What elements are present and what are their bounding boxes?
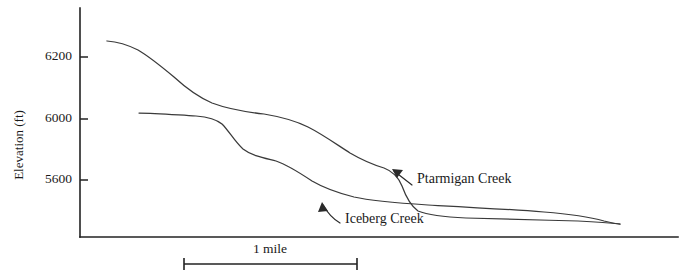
series-line-ptarmigan-creek xyxy=(107,41,620,224)
y-axis-ticks xyxy=(80,57,88,180)
scale-bar-label: 1 mile xyxy=(253,241,287,256)
elevation-profile-figure: 6200 6000 5600 Elevation (ft) Ptarmigan … xyxy=(0,0,685,275)
y-tick-label-6000: 6000 xyxy=(45,110,72,125)
y-tick-label-5600: 5600 xyxy=(45,171,72,186)
annotation-iceberg-creek: Iceberg Creek xyxy=(318,202,424,226)
iceberg-creek-label: Iceberg Creek xyxy=(345,211,424,226)
series-line-iceberg-creek xyxy=(139,113,620,224)
y-tick-label-6200: 6200 xyxy=(45,48,72,63)
y-axis-title: Elevation (ft) xyxy=(11,110,26,180)
iceberg-arrow-head xyxy=(318,202,328,212)
scale-bar: 1 mile xyxy=(184,241,357,270)
ptarmigan-creek-label: Ptarmigan Creek xyxy=(417,171,511,186)
annotation-ptarmigan-creek: Ptarmigan Creek xyxy=(392,169,511,186)
chart-canvas: 6200 6000 5600 Elevation (ft) Ptarmigan … xyxy=(0,0,685,275)
